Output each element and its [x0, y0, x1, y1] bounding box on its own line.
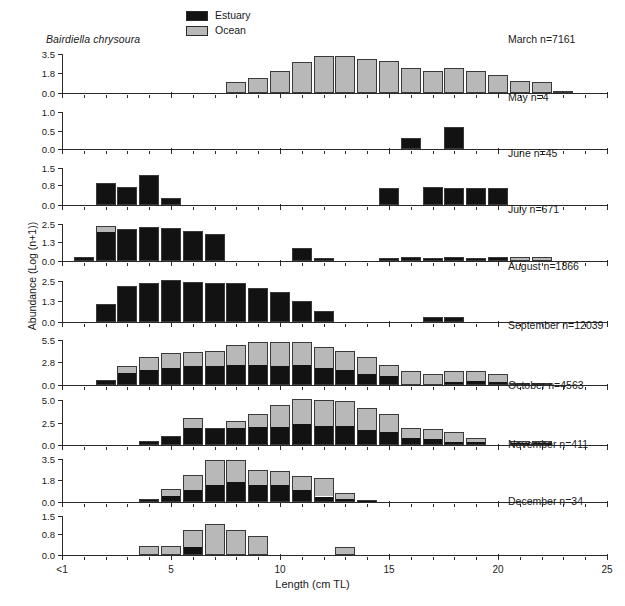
bar: [357, 59, 377, 93]
x-axis-minor-tick: [302, 263, 303, 266]
bar-segment-estuary: [293, 249, 311, 260]
bar: [314, 56, 334, 93]
x-axis-minor-tick: [324, 151, 325, 154]
x-axis-minor-tick: [193, 95, 194, 98]
x-axis-tick-label: <1: [56, 564, 67, 575]
bar-segment-ocean: [336, 548, 354, 554]
x-axis-minor-tick: [106, 557, 107, 560]
y-axis-tick-label: 0.0: [42, 381, 55, 390]
x-axis-minor-tick: [433, 447, 434, 450]
y-axis-tick: [58, 459, 62, 460]
bar-segment-estuary: [336, 426, 354, 444]
bar-segment-ocean: [249, 537, 267, 555]
bar: [161, 228, 181, 261]
bar-segment-estuary: [336, 499, 354, 501]
y-axis-tick-label: 1.5: [42, 164, 55, 173]
bar-segment-estuary: [140, 500, 158, 501]
x-axis-minor-tick: [563, 95, 564, 98]
x-axis-minor-tick: [563, 151, 564, 154]
x-axis-minor-tick: [236, 387, 237, 390]
bar-segment-ocean: [489, 375, 507, 382]
bar-segment-ocean: [206, 525, 224, 554]
x-axis-minor-tick: [302, 557, 303, 560]
bar-segment-ocean: [293, 63, 311, 92]
bar-segment-estuary: [445, 318, 463, 321]
y-axis-tick-label: 1.8: [42, 475, 55, 484]
bar-segment-ocean: [380, 366, 398, 376]
bar: [292, 248, 312, 261]
x-axis-minor-tick: [236, 207, 237, 210]
bar: [444, 68, 464, 93]
x-axis-minor-tick: [454, 151, 455, 154]
y-axis-tick-label: 1.0: [42, 108, 55, 117]
bar-segment-ocean: [249, 343, 267, 364]
x-axis-minor-tick: [411, 447, 412, 450]
x-axis-minor-tick: [563, 207, 564, 210]
x-axis-minor-tick: [476, 151, 477, 154]
x-axis-minor-tick: [454, 324, 455, 327]
bar: [444, 432, 464, 445]
bar: [205, 524, 225, 555]
bar-segment-estuary: [97, 305, 115, 321]
bar-segment-estuary: [118, 230, 136, 260]
bar: [357, 500, 377, 502]
x-axis-minor-tick: [84, 504, 85, 507]
x-axis-line: [62, 555, 607, 556]
x-axis-major-tick: [171, 92, 172, 98]
plot-area: 0.00.81.5: [62, 516, 607, 556]
x-axis-minor-tick: [84, 151, 85, 154]
legend-item-ocean: Ocean: [186, 24, 316, 37]
bar-segment-estuary: [315, 426, 333, 444]
bar: [401, 257, 421, 261]
bar-segment-ocean: [336, 352, 354, 370]
x-axis-minor-tick: [345, 387, 346, 390]
x-axis-minor-tick: [127, 263, 128, 266]
bar: [466, 438, 486, 445]
bar: [314, 258, 334, 261]
panel-title-may: May n=4: [508, 91, 549, 103]
bar: [248, 414, 268, 445]
x-axis-minor-tick: [345, 263, 346, 266]
bar-segment-ocean: [358, 60, 376, 92]
plot-area: 0.01.32.5: [62, 224, 607, 262]
x-axis-minor-tick: [84, 207, 85, 210]
bar: [292, 399, 312, 445]
legend-label-ocean: Ocean: [215, 25, 246, 36]
bar: [226, 82, 246, 93]
bar-segment-estuary: [206, 235, 224, 260]
bar-segment-estuary: [445, 382, 463, 384]
x-axis-major-tick: [607, 92, 608, 98]
y-axis-tick-label: 2.5: [42, 277, 55, 286]
x-axis-major-tick: [389, 148, 390, 154]
y-axis-tick: [58, 534, 62, 535]
x-axis-minor-tick: [476, 504, 477, 507]
y-axis-line: [62, 459, 63, 503]
bar-segment-ocean: [293, 477, 311, 491]
bar: [335, 351, 355, 385]
x-axis-minor-tick: [585, 207, 586, 210]
x-axis-minor-tick: [411, 95, 412, 98]
x-axis-major-tick: [62, 204, 63, 210]
bar: [139, 175, 159, 205]
y-axis-tick-label: 0.0: [42, 551, 55, 560]
x-axis-minor-tick: [193, 324, 194, 327]
x-axis-minor-tick: [258, 207, 259, 210]
bar: [183, 418, 203, 445]
y-axis-tick-label: 0.0: [42, 498, 55, 507]
y-axis-tick: [58, 516, 62, 517]
bar: [161, 353, 181, 385]
bar-segment-estuary: [140, 442, 158, 444]
x-axis-minor-tick: [84, 387, 85, 390]
x-axis-minor-tick: [236, 324, 237, 327]
x-axis-minor-tick: [367, 324, 368, 327]
x-axis-minor-tick: [367, 387, 368, 390]
bar: [139, 227, 159, 261]
bar-segment-estuary: [206, 485, 224, 501]
bar: [270, 342, 290, 385]
x-axis-minor-tick: [345, 95, 346, 98]
bar: [226, 421, 246, 445]
bar-segment-estuary: [271, 366, 289, 384]
bar-segment-ocean: [315, 401, 333, 427]
y-axis-line: [62, 168, 63, 206]
bar-segment-estuary: [445, 258, 463, 260]
